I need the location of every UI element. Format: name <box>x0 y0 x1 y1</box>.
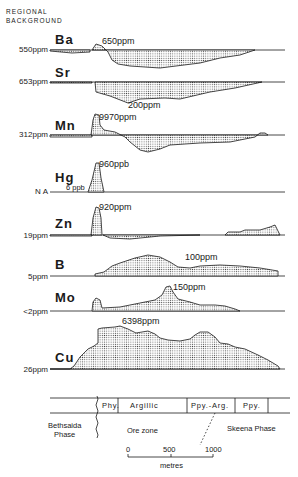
bg-hg: N A <box>0 187 48 196</box>
peak-cu: 6398ppm <box>122 316 160 326</box>
peak-sr: 200ppm <box>128 100 161 110</box>
scale-unit: metres <box>160 461 183 470</box>
bg-mn: 312ppm <box>0 130 48 139</box>
phase-skeena: Skeena Phase <box>227 424 276 433</box>
peak-mn: 9970ppm <box>99 112 137 122</box>
header-line1: REGIONAL <box>6 7 48 16</box>
bg-mo: <2ppm <box>0 307 48 316</box>
bg-ba: 550ppm <box>0 45 48 54</box>
zone-ppy: Ppy. <box>243 401 261 410</box>
peak-ba: 650ppm <box>102 36 135 46</box>
cu-profile <box>50 326 280 369</box>
element-sr: Sr <box>55 65 71 80</box>
element-cu: Cu <box>55 350 74 365</box>
sub-hg: 6 ppb <box>66 183 85 192</box>
header-line2: BACKGROUND <box>6 16 63 25</box>
phase-bethsaida-1: Bethsaida <box>48 421 81 430</box>
element-zn: Zn <box>55 216 73 231</box>
bg-zn: 19ppm <box>0 231 48 240</box>
element-b: B <box>55 257 65 272</box>
mo-profile <box>92 286 240 311</box>
dotted-contact <box>200 413 215 445</box>
phase-bethsaida-2: Phase <box>54 430 75 439</box>
scale-1000: 1000 <box>205 445 222 454</box>
element-ba: Ba <box>55 32 74 47</box>
peak-mo: 150ppm <box>173 282 206 292</box>
zn-profile <box>50 207 280 239</box>
element-mn: Mn <box>55 118 76 133</box>
ba-profile <box>50 44 255 68</box>
mn-profile <box>50 114 268 152</box>
zone-argillic: Argillic <box>130 401 159 410</box>
peak-b: 100ppm <box>185 252 218 262</box>
scale-500: 500 <box>163 445 176 454</box>
bg-b: 5ppm <box>0 272 48 281</box>
peak-zn: 920ppm <box>99 202 132 212</box>
element-mo: Mo <box>55 290 76 305</box>
zone-ppy-arg: Ppy.-Arg. <box>191 401 229 410</box>
bg-cu: 26ppm <box>0 365 48 374</box>
bg-sr: 653ppm <box>0 77 48 86</box>
peak-hg: 960ppb <box>99 159 129 169</box>
scale-0: 0 <box>126 445 130 454</box>
zone-phy: Phy. <box>102 401 120 410</box>
contact-line <box>96 396 98 438</box>
phase-ore-zone: Ore zone <box>127 426 158 435</box>
